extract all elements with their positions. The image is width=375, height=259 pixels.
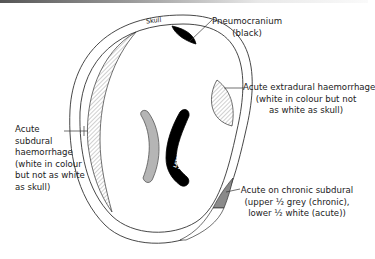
pneumocranium-annotation: Pneumocranium (black) [212,16,282,39]
acute-subdural-region [87,32,136,212]
acute-extradural-region [211,80,233,126]
subdural-annotation: Acute subdural haemorrhage (white in col… [15,124,85,193]
skull-label: Skull [145,16,161,26]
acute-on-chronic-subdural-region [180,178,233,240]
left-ventricle [141,110,159,182]
acute-on-chronic-annotation: Acute on chronic subdural (upper ½ grey … [238,185,356,220]
pneumocranium-region [172,26,196,44]
extradural-annotation: Acute extradural haemorrhage (white in c… [243,82,369,117]
